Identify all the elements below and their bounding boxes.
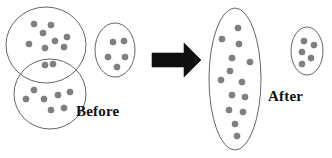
data-point (114, 64, 120, 70)
data-point (226, 107, 232, 113)
data-point (236, 41, 242, 47)
data-point (52, 38, 58, 44)
caption-before: Before (76, 104, 119, 119)
data-point (23, 96, 29, 102)
data-point (308, 55, 314, 61)
data-point (55, 92, 61, 98)
data-point (122, 54, 128, 60)
data-point (41, 96, 47, 102)
data-point (105, 54, 111, 60)
caption-after: After (268, 89, 303, 104)
data-point (311, 42, 317, 48)
data-point (235, 25, 241, 31)
data-point (42, 45, 48, 51)
data-point (40, 30, 46, 36)
arrow-icon (152, 43, 201, 77)
cluster-points-before-bottom-left (23, 61, 73, 113)
cluster-merge-diagram: Before After (0, 0, 332, 158)
data-point (229, 55, 235, 61)
data-point (48, 22, 54, 28)
after-small-cluster (291, 27, 323, 75)
data-point (64, 34, 70, 40)
before-right-cluster (95, 23, 135, 77)
cluster-points-after-small (299, 38, 317, 67)
data-point (31, 21, 37, 27)
data-point (229, 92, 235, 98)
data-point (234, 133, 240, 139)
data-point (299, 49, 305, 55)
data-point (67, 89, 73, 95)
data-point (232, 121, 238, 127)
data-point (227, 68, 233, 74)
data-point (299, 61, 305, 67)
data-point (42, 62, 48, 68)
after-merged-cluster (209, 8, 261, 150)
diagram-canvas (0, 0, 332, 158)
data-point (121, 38, 127, 44)
data-point (247, 59, 253, 65)
data-point (48, 107, 54, 113)
data-point (239, 79, 245, 85)
data-point (110, 39, 116, 45)
data-point (61, 105, 67, 111)
cluster-outline-after-small (291, 27, 323, 75)
data-point (219, 36, 225, 42)
before-top-left-cluster (6, 7, 86, 83)
data-point (301, 38, 307, 44)
data-point (242, 94, 248, 100)
transformation-arrow (152, 43, 201, 77)
data-point (31, 87, 37, 93)
data-point (218, 77, 224, 83)
data-point (26, 41, 32, 47)
data-point (61, 44, 67, 50)
cluster-points-before-top-left (26, 21, 70, 51)
cluster-points-before-right (105, 38, 128, 70)
data-point (50, 61, 56, 67)
cluster-points-after-merged (218, 25, 253, 139)
data-point (240, 109, 246, 115)
